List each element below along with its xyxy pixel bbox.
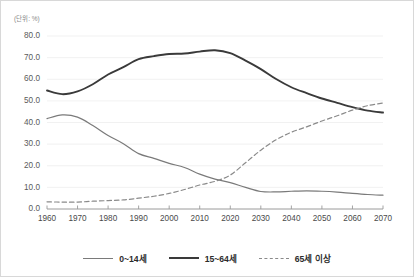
legend-swatch-solid-icon: [169, 257, 199, 259]
line-chart-plot: 0.010.020.030.040.050.060.070.080.0 1960…: [1, 1, 414, 241]
chart-card: (단위: %) 0.010.020.030.040.050.060.070.08…: [0, 0, 414, 277]
y-axis-tick-labels: 0.010.020.030.040.050.060.070.080.0: [24, 31, 40, 213]
x-axis-tick-label: 2000: [160, 214, 179, 223]
x-axis-tick-label: 1970: [68, 214, 87, 223]
x-axis-tick-label: 2030: [252, 214, 271, 223]
y-axis-tick-label: 20.0: [24, 161, 40, 170]
y-axis-tick-label: 60.0: [24, 74, 40, 83]
chart-legend: 0~14세15~64세65세 이상: [1, 252, 413, 264]
series-line-0~14세: [47, 115, 383, 195]
y-axis-tick-label: 30.0: [24, 139, 40, 148]
y-axis-tick-label: 80.0: [24, 31, 40, 40]
legend-label: 0~14세: [119, 252, 146, 264]
x-axis-tick-labels: 1960197019801990200020102020203020402050…: [38, 214, 393, 223]
y-axis-tick-label: 10.0: [24, 183, 40, 192]
x-axis-tick-label: 2020: [221, 214, 240, 223]
y-axis-tick-label: 70.0: [24, 53, 40, 62]
y-axis-tick-label: 0.0: [29, 204, 41, 213]
legend-item[interactable]: 65세 이상: [259, 252, 331, 264]
y-axis-tick-label: 50.0: [24, 96, 40, 105]
x-axis-tick-label: 2010: [191, 214, 210, 223]
gridlines-group: [47, 36, 383, 187]
legend-label: 15~64세: [205, 252, 237, 264]
x-axis-tick-label: 2070: [374, 214, 393, 223]
x-axis: [47, 206, 383, 210]
x-axis-tick-label: 1980: [99, 214, 118, 223]
x-axis-tick-label: 2050: [313, 214, 332, 223]
legend-label: 65세 이상: [295, 252, 331, 264]
series-line-15~64세: [47, 50, 383, 112]
x-axis-tick-label: 2040: [282, 214, 301, 223]
x-axis-tick-label: 2060: [343, 214, 362, 223]
x-axis-tick-label: 1990: [130, 214, 149, 223]
legend-item[interactable]: 15~64세: [169, 252, 237, 264]
x-axis-tick-label: 1960: [38, 214, 57, 223]
legend-item[interactable]: 0~14세: [83, 252, 146, 264]
y-axis-tick-label: 40.0: [24, 118, 40, 127]
legend-swatch-solid-icon: [83, 258, 113, 259]
series-lines-group: [47, 50, 383, 202]
legend-swatch-dashed-icon: [259, 258, 289, 259]
